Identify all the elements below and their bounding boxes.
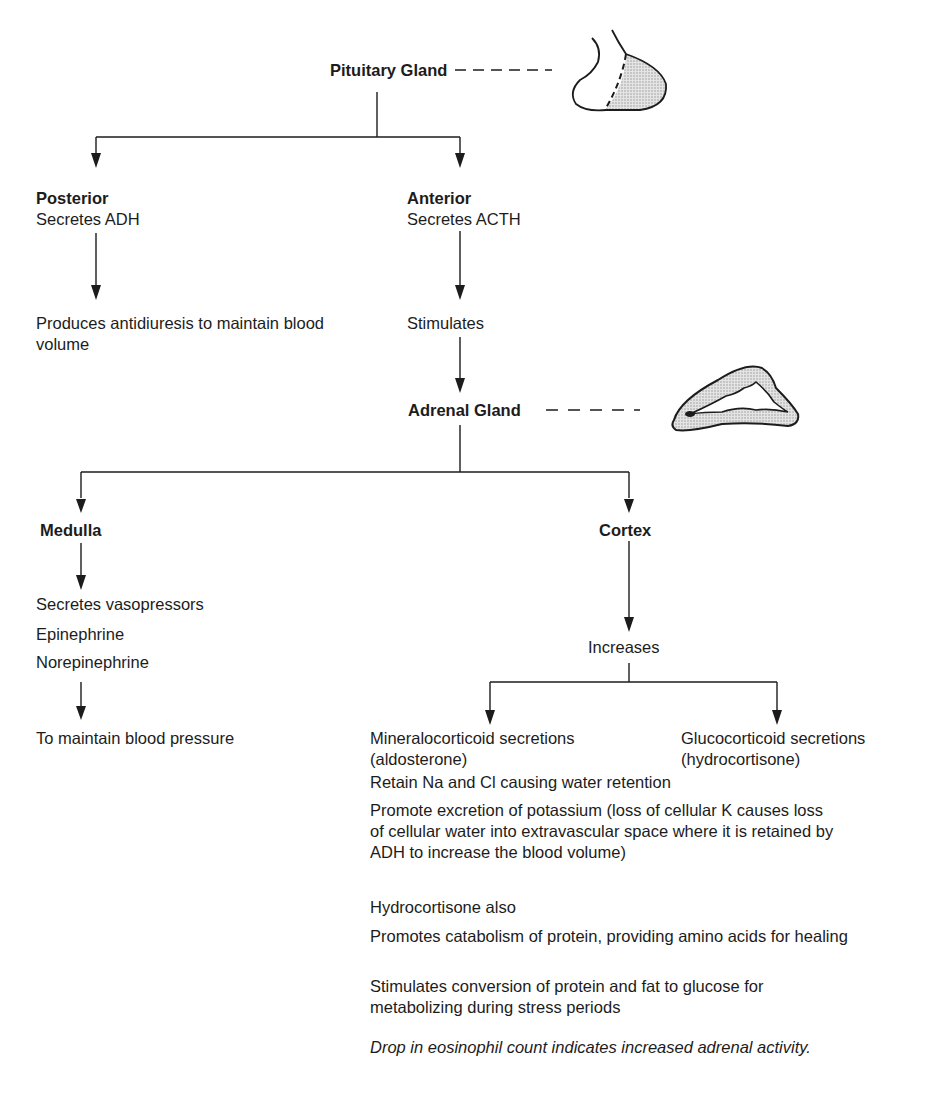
hydrocortisone-heading: Hydrocortisone also: [370, 897, 516, 918]
note-hydrocortisone-1: Stimulates conversion of protein and fat…: [370, 976, 850, 1018]
medulla-effect: To maintain blood pressure: [36, 728, 234, 749]
glucocorticoid-line1: Glucocorticoid secretions: [681, 728, 865, 749]
glucocorticoid-line2: (hydrocortisone): [681, 749, 800, 770]
mineralocorticoid-line1: Mineralocorticoid secretions: [370, 728, 575, 749]
pituitary-gland-icon: [560, 20, 680, 120]
mineralocorticoid-line2: (aldosterone): [370, 749, 467, 770]
medulla-secretes-1: Epinephrine: [36, 624, 124, 645]
note-mineralocorticoid-0: Retain Na and Cl causing water retention: [370, 772, 930, 793]
posterior-subtitle: Secretes ADH: [36, 209, 140, 230]
posterior-title: Posterior: [36, 188, 108, 209]
footnote: Drop in eosinophil count indicates incre…: [370, 1037, 811, 1058]
note-hydrocortisone-0: Promotes catabolism of protein, providin…: [370, 926, 850, 947]
cortex-action: Increases: [588, 637, 660, 658]
pituitary-gland-label: Pituitary Gland: [330, 60, 447, 81]
medulla-secretes-2: Norepinephrine: [36, 652, 149, 673]
adrenal-gland-label: Adrenal Gland: [408, 400, 521, 421]
anterior-effect: Stimulates: [407, 313, 484, 334]
anterior-title: Anterior: [407, 188, 471, 209]
medulla-title: Medulla: [40, 520, 101, 541]
cortex-title: Cortex: [599, 520, 651, 541]
note-mineralocorticoid-1: Promote excretion of potassium (loss of …: [370, 800, 840, 863]
anterior-subtitle: Secretes ACTH: [407, 209, 521, 230]
adrenal-gland-icon: [660, 360, 820, 440]
posterior-effect: Produces antidiuresis to maintain blood …: [36, 313, 346, 355]
medulla-secretes-0: Secretes vasopressors: [36, 594, 204, 615]
